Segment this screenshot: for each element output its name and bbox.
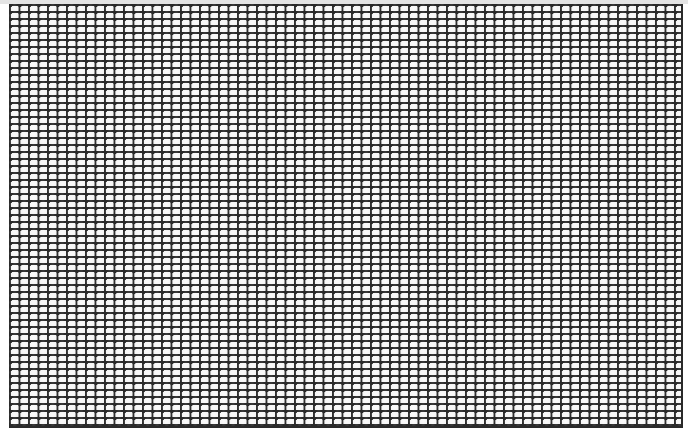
wire-mesh-grid bbox=[9, 4, 683, 428]
bottom-margin bbox=[0, 428, 688, 436]
